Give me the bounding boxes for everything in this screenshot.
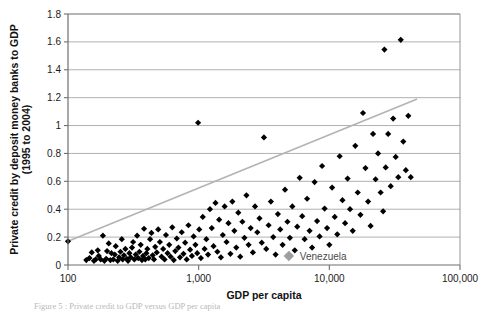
data-point-marker: [393, 154, 399, 160]
data-point-marker: [365, 198, 371, 204]
data-point-marker: [261, 134, 267, 140]
data-point-marker: [237, 254, 243, 260]
data-point-marker: [355, 189, 361, 195]
data-point-marker: [383, 164, 389, 170]
data-point-marker: [243, 192, 249, 198]
data-point-marker: [329, 185, 335, 191]
data-point-marker: [334, 231, 340, 237]
x-axis-tick-label: 100,000: [442, 273, 479, 284]
y-axis-tick-label: 0.8: [47, 148, 61, 159]
data-point-marker: [322, 205, 328, 211]
data-point-marker: [241, 235, 247, 241]
data-points: [65, 37, 414, 264]
data-point-marker: [182, 240, 188, 246]
y-axis-tick-label: 0.4: [47, 204, 61, 215]
data-point-marker: [304, 196, 310, 202]
y-axis-title-line1: Private credit by deposit money banks to…: [8, 24, 20, 254]
data-point-marker: [395, 174, 401, 180]
data-point-marker: [152, 244, 158, 250]
data-point-marker: [205, 251, 211, 257]
y-axis-tick-label: 0.6: [47, 176, 61, 187]
data-point-marker: [287, 235, 293, 241]
y-axis: 00.20.40.60.811.21.41.61.8: [47, 9, 68, 271]
data-point-marker: [212, 200, 218, 206]
data-point-marker: [184, 256, 190, 262]
data-point-marker: [368, 223, 374, 229]
data-point-marker: [179, 229, 185, 235]
x-axis-tick-label: 10,000: [314, 273, 345, 284]
data-point-marker: [223, 239, 229, 245]
gridlines: [68, 14, 460, 237]
data-point-marker: [309, 244, 315, 250]
data-point-marker: [248, 225, 254, 231]
data-point-marker: [185, 222, 191, 228]
data-point-marker: [144, 246, 150, 252]
y-axis-tick-label: 0: [55, 260, 61, 271]
data-point-marker: [400, 138, 406, 144]
data-point-marker: [275, 211, 281, 217]
data-point-marker: [89, 249, 95, 255]
data-point-marker: [134, 233, 140, 239]
data-point-marker: [378, 189, 384, 195]
data-point-marker: [347, 206, 353, 212]
data-point-marker: [95, 247, 101, 253]
data-point-marker: [157, 239, 163, 245]
data-point-marker: [191, 233, 197, 239]
y-axis-title-line2: (1995 to 2004): [20, 105, 32, 174]
data-point-marker: [218, 254, 224, 260]
data-point-marker: [306, 228, 312, 234]
data-point-marker: [292, 247, 298, 253]
data-point-marker: [254, 229, 260, 235]
data-point-marker: [277, 226, 283, 232]
data-point-marker: [280, 242, 286, 248]
x-axis-tick-label: 1,000: [186, 273, 211, 284]
data-point-marker: [282, 187, 288, 193]
data-point-marker: [229, 198, 235, 204]
data-point-marker: [155, 226, 161, 232]
data-point-marker: [166, 242, 172, 248]
data-point-marker: [231, 228, 237, 234]
data-point-marker: [169, 224, 175, 230]
data-point-marker: [284, 219, 290, 225]
data-point-marker: [324, 225, 330, 231]
data-point-marker: [360, 110, 366, 116]
data-point-marker: [314, 218, 320, 224]
data-point-marker: [339, 197, 345, 203]
data-point-marker: [270, 234, 276, 240]
data-point-marker: [216, 217, 222, 223]
data-point-marker: [239, 219, 245, 225]
data-point-marker: [345, 175, 351, 181]
data-point-marker: [201, 246, 207, 252]
data-point-marker: [129, 244, 135, 250]
data-point-marker: [198, 255, 204, 261]
data-point-marker: [130, 239, 136, 245]
data-point-marker: [289, 203, 295, 209]
data-point-marker: [381, 46, 387, 52]
annotation-marker-venezuela: [284, 251, 294, 261]
data-point-marker: [370, 131, 376, 137]
data-point-marker: [187, 247, 193, 253]
data-point-marker: [100, 233, 106, 239]
y-axis-tick-label: 1: [55, 120, 61, 131]
data-point-marker: [250, 249, 256, 255]
x-axis: 1001,00010,000100,000: [60, 265, 479, 284]
y-axis-tick-label: 1.6: [47, 36, 61, 47]
data-point-marker: [375, 150, 381, 156]
data-point-marker: [174, 235, 180, 241]
data-point-marker: [200, 214, 206, 220]
data-point-marker: [222, 203, 228, 209]
data-point-marker: [385, 131, 391, 137]
data-point-marker: [352, 143, 358, 149]
data-point-marker: [319, 163, 325, 169]
data-point-marker: [256, 215, 262, 221]
data-point-marker: [405, 113, 411, 119]
data-point-marker: [113, 243, 119, 249]
data-point-marker: [233, 244, 239, 250]
data-point-marker: [122, 246, 128, 252]
data-point-marker: [195, 120, 201, 126]
data-point-marker: [388, 183, 394, 189]
data-point-marker: [268, 198, 274, 204]
annotation-label-venezuela: Venezuela: [300, 251, 347, 262]
data-point-marker: [316, 233, 322, 239]
annotations: Venezuela: [284, 251, 347, 262]
